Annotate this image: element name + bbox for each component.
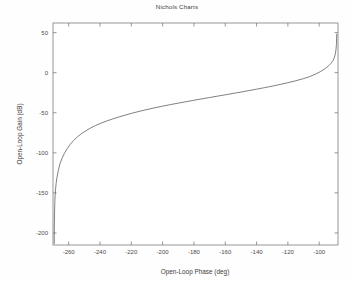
nichols-chart-plot: -260-240-220-200-180-160-140-120-100 500… <box>0 0 354 281</box>
y-tick-label: -200 <box>36 230 49 236</box>
x-tick-label: -180 <box>188 249 201 255</box>
x-tick-label: -220 <box>125 249 138 255</box>
x-tick-label: -160 <box>219 249 232 255</box>
x-tick-label: -100 <box>313 249 326 255</box>
x-axis-label: Open-Loop Phase (deg) <box>161 268 230 276</box>
y-tick-label: 0 <box>45 70 49 76</box>
y-tick-labels: 500-50-100-150-200 <box>36 30 49 236</box>
x-tick-label: -200 <box>157 249 170 255</box>
y-tick-label: -150 <box>36 190 49 196</box>
x-tick-label: -260 <box>63 249 76 255</box>
y-axis-label: Open-Loop Gain (dB) <box>16 103 24 164</box>
x-tick-label: -240 <box>94 249 107 255</box>
x-tick-labels: -260-240-220-200-180-160-140-120-100 <box>63 249 326 255</box>
x-tick-label: -140 <box>251 249 264 255</box>
y-tick-label: 50 <box>41 30 48 36</box>
x-tick-label: -120 <box>282 249 295 255</box>
y-tick-label: -50 <box>39 110 48 116</box>
y-tick-label: -100 <box>36 150 49 156</box>
figure-canvas: Nichols Charts -260-240-220-200-180-160-… <box>0 0 354 281</box>
plot-area-background <box>53 23 338 245</box>
